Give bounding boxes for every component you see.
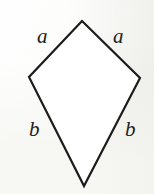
side-label-a-right: a [113, 26, 124, 47]
kite-shape-svg [0, 0, 154, 194]
kite-figure: a a b b [0, 0, 154, 194]
side-label-a-left: a [37, 26, 48, 47]
side-label-b-left: b [29, 119, 40, 140]
side-label-b-right: b [125, 119, 136, 140]
